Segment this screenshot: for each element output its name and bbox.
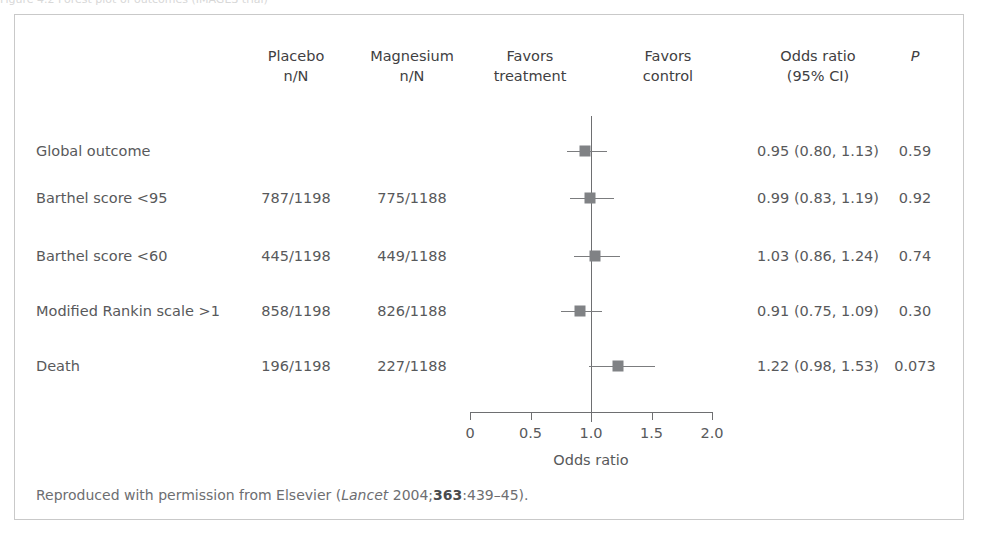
forest-plot-figure: Figure 4.2 Forest plot of outcomes (IMAG… (0, 0, 983, 533)
row-value-placebo: 858/1198 (261, 303, 330, 319)
row-value-odds-ratio: 0.91 (0.75, 1.09) (757, 303, 879, 319)
row-value-magnesium: 826/1188 (377, 303, 446, 319)
x-axis-tick (652, 412, 653, 420)
row-label-outcome: Modified Rankin scale >1 (36, 303, 220, 319)
row-label-outcome: Barthel score <95 (36, 190, 167, 206)
x-axis-tick (591, 412, 592, 420)
point-estimate-marker (575, 306, 586, 317)
row-value-odds-ratio: 0.99 (0.83, 1.19) (757, 190, 879, 206)
footnote-prefix: Reproduced with permission from Elsevier… (36, 487, 341, 503)
row-value-placebo: 787/1198 (261, 190, 330, 206)
footnote-journal: Lancet (341, 487, 388, 503)
row-value-odds-ratio: 0.95 (0.80, 1.13) (757, 143, 879, 159)
row-label-outcome: Global outcome (36, 143, 151, 159)
x-axis-tick-label: 1.5 (640, 425, 663, 441)
x-axis-tick-label: 0.5 (519, 425, 542, 441)
column-header-magnesium-line1: Magnesium (370, 48, 454, 64)
source-footnote: Reproduced with permission from Elsevier… (36, 487, 528, 503)
row-value-placebo: 196/1198 (261, 358, 330, 374)
row-value-placebo: 445/1198 (261, 248, 330, 264)
row-value-p: 0.92 (899, 190, 931, 206)
point-estimate-marker (589, 251, 600, 262)
footnote-year: 2004; (388, 487, 433, 503)
x-axis-tick (531, 412, 532, 420)
row-label-outcome: Barthel score <60 (36, 248, 167, 264)
point-estimate-marker (584, 193, 595, 204)
row-value-magnesium: 449/1188 (377, 248, 446, 264)
x-axis-tick (712, 412, 713, 420)
x-axis-title: Odds ratio (553, 452, 628, 468)
row-value-magnesium: 227/1188 (377, 358, 446, 374)
footnote-pages: :439–45). (462, 487, 528, 503)
column-header-odds-ratio-line2: (95% CI) (787, 68, 850, 84)
column-header-favors-control-line2: control (643, 68, 693, 84)
column-header-magnesium-line2: n/N (400, 68, 425, 84)
point-estimate-marker (612, 361, 623, 372)
row-value-p: 0.30 (899, 303, 931, 319)
point-estimate-marker (579, 146, 590, 157)
row-value-p: 0.74 (899, 248, 931, 264)
column-header-placebo-line1: Placebo (268, 48, 325, 64)
x-axis-tick-label: 0 (465, 425, 474, 441)
footnote-volume: 363 (433, 487, 462, 503)
row-value-odds-ratio: 1.22 (0.98, 1.53) (757, 358, 879, 374)
column-header-p-line1: P (911, 48, 920, 64)
reference-line (591, 116, 592, 422)
row-value-odds-ratio: 1.03 (0.86, 1.24) (757, 248, 879, 264)
column-header-favors-treatment-line2: treatment (494, 68, 567, 84)
x-axis-tick-label: 2.0 (700, 425, 723, 441)
column-header-favors-control-line1: Favors (645, 48, 692, 64)
column-header-favors-treatment-line1: Favors (507, 48, 554, 64)
row-value-p: 0.59 (899, 143, 931, 159)
column-header-odds-ratio-line1: Odds ratio (780, 48, 855, 64)
x-axis-tick (470, 412, 471, 420)
row-value-magnesium: 775/1188 (377, 190, 446, 206)
row-label-outcome: Death (36, 358, 80, 374)
row-value-p: 0.073 (894, 358, 936, 374)
forest-plot-canvas: Placebon/NMagnesiumn/NFavorstreatmentFav… (0, 0, 983, 533)
x-axis-tick-label: 1.0 (579, 425, 602, 441)
column-header-placebo-line2: n/N (284, 68, 309, 84)
